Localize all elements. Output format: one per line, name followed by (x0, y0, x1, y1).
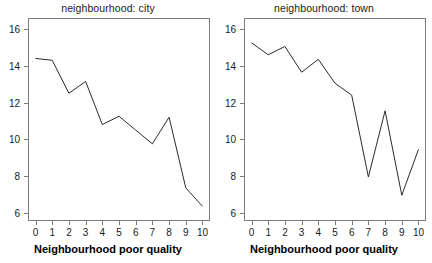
series-polyline (36, 58, 203, 206)
trellis-figure: neighbourhood: city681012141601234567891… (0, 0, 432, 263)
series-polyline (252, 43, 419, 195)
data-series-line (0, 0, 216, 263)
chart-panel: neighbourhood: town681012141601234567891… (216, 0, 432, 263)
chart-panel: neighbourhood: city681012141601234567891… (0, 0, 216, 263)
data-series-line (216, 0, 432, 263)
